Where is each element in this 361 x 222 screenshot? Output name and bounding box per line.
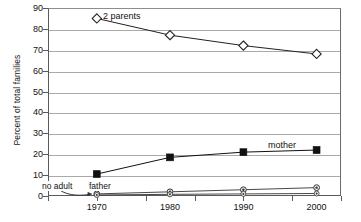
series-label-father: father: [88, 181, 112, 191]
series-label-2-parents: 2 parents: [103, 11, 141, 21]
chart-container: Percent of total families 90 80 70 60 50…: [0, 0, 361, 222]
series-label-mother: mother: [268, 140, 296, 150]
series-label-no-adult: no adult: [41, 181, 73, 191]
series-mother: [93, 147, 320, 178]
series-no-adult: [94, 191, 319, 197]
